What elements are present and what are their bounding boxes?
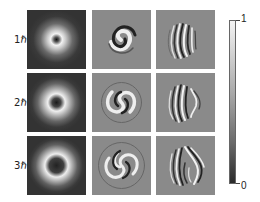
spiral-panel-1 [92, 10, 151, 69]
spiral-panel-3 [92, 136, 151, 195]
fringe-panel-1 [156, 10, 215, 69]
intensity-panel-3 [27, 136, 86, 195]
fringe-panel-2 [156, 73, 215, 132]
fringe-panel-3 [156, 136, 215, 195]
colorbar-tick-max [236, 20, 240, 21]
hbar-symbol: ℏ [20, 160, 26, 171]
colorbar-tick-min [236, 183, 240, 184]
colorbar-max-label: 1 [241, 14, 247, 24]
hbar-symbol: ℏ [20, 97, 26, 108]
row-label-3: 3ℏ [14, 161, 27, 171]
colorbar-min-label: 0 [241, 181, 247, 191]
hbar-symbol: ℏ [20, 34, 26, 45]
row-label-2: 2ℏ [14, 98, 27, 108]
colorbar [229, 20, 236, 184]
spiral-panel-2 [92, 73, 151, 132]
intensity-panel-1 [27, 10, 86, 69]
intensity-panel-2 [27, 73, 86, 132]
row-label-1: 1ℏ [14, 35, 27, 45]
